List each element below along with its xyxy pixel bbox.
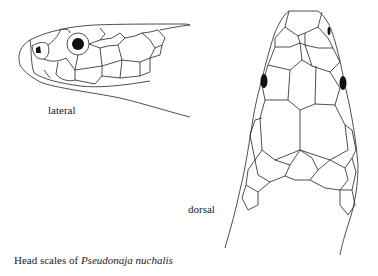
caption-prefix: Head scales of: [14, 254, 81, 266]
dorsal-view-drawing: [0, 0, 378, 276]
head-scales-figure: lateral dorsal Head scales of Pseudonaja…: [0, 0, 378, 276]
dorsal-view-label: dorsal: [188, 203, 215, 215]
figure-caption: Head scales of Pseudonaja nuchalis: [14, 254, 173, 266]
lateral-view-label: lateral: [48, 104, 75, 116]
caption-species: Pseudonaja nuchalis: [81, 254, 173, 266]
